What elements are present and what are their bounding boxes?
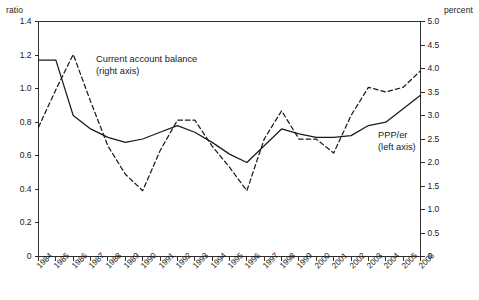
series-annotation-ppp-er: PPP/er (left axis): [378, 130, 416, 153]
series-annotation-cab-line2: (right axis): [96, 66, 197, 78]
series-annotation-cab-line1: Current account balance: [96, 54, 197, 66]
series-annotation-ppp-line1: PPP/er: [378, 130, 416, 142]
chart-figure: ratio percent 00.20.40.60.81.01.21.4 00.…: [0, 0, 479, 300]
series-annotation-ppp-line2: (left axis): [378, 142, 416, 154]
tick-marks: [35, 22, 425, 261]
series-annotation-current-account-balance: Current account balance (right axis): [96, 54, 197, 77]
